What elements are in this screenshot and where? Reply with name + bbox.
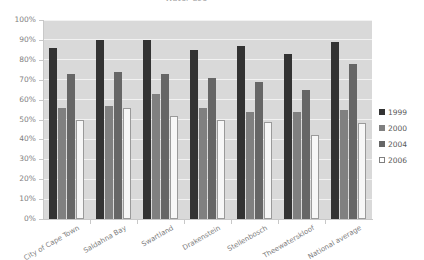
legend-label: 2000 bbox=[388, 124, 407, 133]
y-axis-tick-label: 20% bbox=[0, 174, 36, 183]
y-axis-tick bbox=[39, 179, 43, 180]
legend-label: 2006 bbox=[388, 156, 407, 165]
bar-2006-1[interactable] bbox=[76, 120, 84, 220]
x-axis-line bbox=[43, 219, 373, 220]
chart-title: Water use bbox=[0, 0, 372, 3]
bar-1999-3[interactable] bbox=[143, 40, 151, 219]
bar-2006-6[interactable] bbox=[311, 135, 319, 219]
x-axis-tick bbox=[278, 220, 279, 224]
bar-2004-2[interactable] bbox=[114, 72, 122, 219]
y-axis-line bbox=[43, 20, 44, 220]
x-axis-label: Swartland bbox=[140, 224, 174, 249]
y-axis-tick bbox=[39, 159, 43, 160]
y-axis-tick bbox=[39, 80, 43, 81]
x-axis-tick bbox=[325, 220, 326, 224]
x-axis-label: Stellenbosch bbox=[226, 224, 269, 253]
x-axis-label: Drakenstein bbox=[181, 224, 222, 252]
legend-label: 1999 bbox=[388, 108, 407, 117]
bar-group bbox=[331, 20, 366, 219]
y-axis-tick bbox=[39, 219, 43, 220]
legend-item-1999[interactable]: 1999 bbox=[379, 104, 424, 120]
bar-group bbox=[237, 20, 272, 219]
legend-swatch-icon bbox=[379, 157, 385, 163]
y-axis-tick-label: 90% bbox=[0, 35, 36, 44]
bar-1999-4[interactable] bbox=[190, 50, 198, 219]
y-axis-tick-label: 70% bbox=[0, 75, 36, 84]
y-axis-tick-label: 100% bbox=[0, 15, 36, 24]
bar-chart: Water use 100%90%80%70%60%50%40%30%20%10… bbox=[0, 0, 424, 260]
bar-2000-3[interactable] bbox=[152, 94, 160, 219]
bar-2004-4[interactable] bbox=[208, 78, 216, 219]
bar-1999-6[interactable] bbox=[284, 54, 292, 219]
bar-1999-2[interactable] bbox=[96, 40, 104, 219]
bar-2004-6[interactable] bbox=[302, 90, 310, 219]
bar-2000-5[interactable] bbox=[246, 112, 254, 219]
x-axis-tick bbox=[231, 220, 232, 224]
y-axis-tick-label: 40% bbox=[0, 134, 36, 143]
x-axis-tick bbox=[184, 220, 185, 224]
legend-item-2006[interactable]: 2006 bbox=[379, 152, 424, 168]
y-axis-tick-label: 30% bbox=[0, 154, 36, 163]
bar-group bbox=[96, 20, 131, 219]
bar-1999-7[interactable] bbox=[331, 42, 339, 219]
y-axis-labels: 100%90%80%70%60%50%40%30%20%10%0% bbox=[0, 0, 38, 260]
bar-2006-4[interactable] bbox=[217, 120, 225, 220]
bar-2006-7[interactable] bbox=[358, 123, 366, 219]
y-axis-tick bbox=[39, 120, 43, 121]
bar-1999-1[interactable] bbox=[49, 48, 57, 219]
bar-2000-1[interactable] bbox=[58, 108, 66, 219]
bar-2000-4[interactable] bbox=[199, 108, 207, 219]
y-axis-tick-label: 80% bbox=[0, 55, 36, 64]
plot-area bbox=[43, 20, 372, 219]
y-axis-tick bbox=[39, 40, 43, 41]
bar-group bbox=[190, 20, 225, 219]
bar-group bbox=[143, 20, 178, 219]
legend-swatch-icon bbox=[379, 141, 385, 147]
x-axis-tick bbox=[90, 220, 91, 224]
bar-2004-3[interactable] bbox=[161, 74, 169, 219]
legend-item-2004[interactable]: 2004 bbox=[379, 136, 424, 152]
y-axis-tick-label: 50% bbox=[0, 115, 36, 124]
y-axis-tick bbox=[39, 139, 43, 140]
bar-2000-2[interactable] bbox=[105, 106, 113, 219]
x-axis-label: Saldahna Bay bbox=[82, 224, 128, 255]
y-axis-tick-label: 0% bbox=[0, 214, 36, 223]
bar-group bbox=[49, 20, 84, 219]
legend-swatch-icon bbox=[379, 125, 385, 131]
bar-1999-5[interactable] bbox=[237, 46, 245, 219]
legend-label: 2004 bbox=[388, 140, 407, 149]
bar-2004-7[interactable] bbox=[349, 64, 357, 219]
bar-2004-1[interactable] bbox=[67, 74, 75, 219]
bar-2004-5[interactable] bbox=[255, 82, 263, 219]
y-axis-tick-label: 10% bbox=[0, 194, 36, 203]
bar-2000-7[interactable] bbox=[340, 110, 348, 219]
bar-2006-2[interactable] bbox=[123, 108, 131, 219]
legend-item-2000[interactable]: 2000 bbox=[379, 120, 424, 136]
y-axis-tick bbox=[39, 199, 43, 200]
bar-group bbox=[284, 20, 319, 219]
bar-2006-5[interactable] bbox=[264, 122, 272, 220]
bar-2006-3[interactable] bbox=[170, 116, 178, 219]
y-axis-tick bbox=[39, 20, 43, 21]
y-axis-tick bbox=[39, 60, 43, 61]
legend-swatch-icon bbox=[379, 109, 385, 115]
chart-legend: 1999200020042006 bbox=[379, 104, 424, 168]
x-axis-tick bbox=[137, 220, 138, 224]
bar-2000-6[interactable] bbox=[293, 112, 301, 219]
y-axis-tick bbox=[39, 100, 43, 101]
y-axis-tick-label: 60% bbox=[0, 95, 36, 104]
